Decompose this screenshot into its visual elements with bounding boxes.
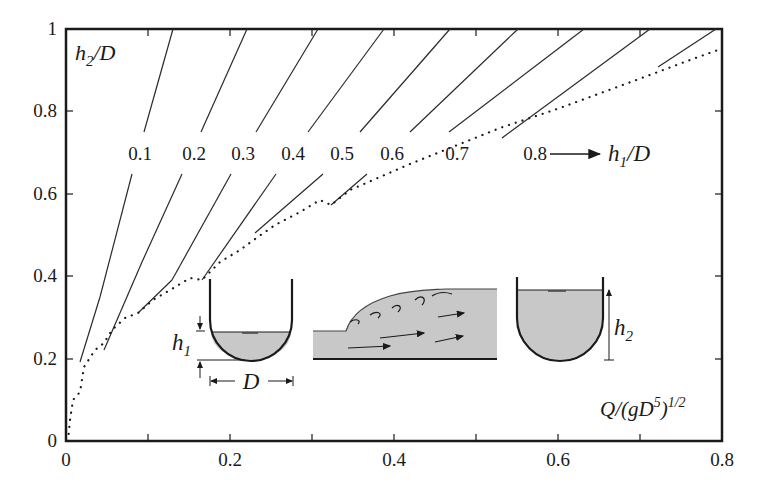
x-tick-label-0.8: 0.8 xyxy=(710,449,734,470)
curves-upper xyxy=(144,29,716,138)
y-tick-label-0.8: 0.8 xyxy=(33,100,57,121)
x-tick-label-0.2: 0.2 xyxy=(218,449,242,470)
y-axis-title: h2/D xyxy=(75,40,116,69)
y-tick-label-0.6: 0.6 xyxy=(33,183,57,204)
x-tick-label-0.6: 0.6 xyxy=(546,449,570,470)
h1-over-D-label: h1/D xyxy=(608,141,650,170)
y-tick-label-0.4: 0.4 xyxy=(33,265,57,286)
curve-label-0.1: 0.1 xyxy=(128,143,152,164)
curve-label-0.3: 0.3 xyxy=(231,143,255,164)
inset-h2-label: h2 xyxy=(614,315,634,344)
curve-label-0.5: 0.5 xyxy=(330,143,354,164)
critical-curve-dotted xyxy=(68,50,718,441)
y-tick-label-0: 0 xyxy=(48,430,58,451)
curve-label-0.8: 0.8 xyxy=(523,143,547,164)
x-tick-label-0: 0 xyxy=(61,449,71,470)
curve-label-0.4: 0.4 xyxy=(281,143,305,164)
x-axis-title: Q/(gD5)1/2 xyxy=(600,395,686,421)
y-tick-label-1: 1 xyxy=(48,18,58,39)
plot-frame xyxy=(66,29,722,441)
curve-label-0.2: 0.2 xyxy=(182,143,206,164)
inset-pipe-h2: h2 xyxy=(517,277,634,361)
inset-D-label: D xyxy=(242,369,260,394)
curve-labels: 0.1 0.2 0.3 0.4 0.5 0.6 0.7 0.8 xyxy=(128,143,547,164)
x-tick-label-0.4: 0.4 xyxy=(382,449,406,470)
curve-label-0.7: 0.7 xyxy=(445,143,469,164)
inset-pipe-h1: h1 D xyxy=(172,279,293,394)
inset-h1-label: h1 xyxy=(172,330,191,359)
curve-label-0.6: 0.6 xyxy=(380,143,404,164)
y-tick-label-0.2: 0.2 xyxy=(33,348,57,369)
inset-hydraulic-jump xyxy=(313,289,497,359)
chart: 0 0.2 0.4 0.6 0.8 0 0.2 0.4 0.6 0.8 1 h2… xyxy=(0,0,760,487)
